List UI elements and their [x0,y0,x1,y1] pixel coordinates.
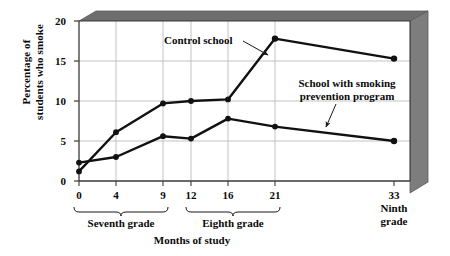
bracket-seventh-grade [74,207,168,216]
frame-right-bevel [410,11,428,193]
grade-brackets [74,207,280,216]
bracket-eighth-grade [186,207,280,216]
chart-figure: Percentage of students who smoke 20 15 1… [0,0,450,256]
x-tick-marks [79,181,394,186]
y-tick-marks [74,21,79,181]
chart-canvas [0,0,450,256]
frame-top-bevel [79,11,428,21]
